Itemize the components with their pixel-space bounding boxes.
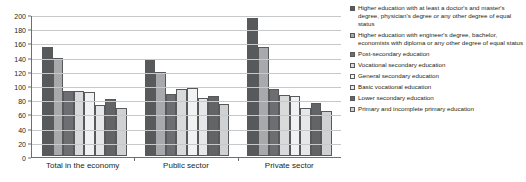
bar bbox=[279, 95, 290, 156]
legend-item[interactable]: Higher education with at least a doctor'… bbox=[350, 4, 526, 28]
legend-swatch-icon bbox=[350, 107, 355, 112]
legend-swatch-icon bbox=[350, 52, 355, 57]
legend-swatch-icon bbox=[350, 74, 355, 79]
bar bbox=[269, 89, 280, 156]
y-tick-label: 120 bbox=[14, 69, 26, 76]
legend-swatch-icon bbox=[350, 33, 355, 38]
plot-area bbox=[31, 16, 341, 158]
y-tick-mark bbox=[28, 143, 31, 144]
plot-wrapper: 200180160140120100806040200 Total in the… bbox=[0, 0, 350, 182]
y-tick-mark bbox=[28, 115, 31, 116]
legend-label: General secondary education bbox=[358, 72, 439, 80]
x-axis-divider bbox=[134, 158, 135, 161]
bar bbox=[290, 96, 301, 156]
y-tick-label: 20 bbox=[18, 140, 26, 147]
y-axis: 200180160140120100806040200 bbox=[0, 16, 26, 158]
y-tick-mark bbox=[28, 101, 31, 102]
gridline bbox=[32, 144, 341, 145]
legend-item[interactable]: Post-secondary education bbox=[350, 50, 526, 58]
gridline bbox=[32, 73, 341, 74]
bar bbox=[208, 96, 219, 156]
y-tick-label: 180 bbox=[14, 27, 26, 34]
gridline bbox=[32, 30, 341, 31]
x-category-label: Private sector bbox=[238, 161, 341, 170]
legend-label: Lower secondary education bbox=[358, 94, 434, 102]
bar bbox=[198, 98, 209, 156]
y-tick-label: 100 bbox=[14, 84, 26, 91]
bar-group bbox=[238, 16, 341, 156]
bar bbox=[166, 94, 177, 156]
legend-swatch-icon bbox=[350, 63, 355, 68]
bar-group bbox=[136, 16, 239, 156]
y-tick-mark bbox=[28, 30, 31, 31]
y-tick-label: 0 bbox=[22, 155, 26, 162]
y-tick-mark bbox=[28, 129, 31, 130]
bar bbox=[145, 59, 156, 156]
y-tick-mark bbox=[28, 44, 31, 45]
legend-label: Post-secondary education bbox=[358, 50, 430, 58]
legend-item[interactable]: Basic vocational education bbox=[350, 83, 526, 91]
legend-label: Vocational secondary education bbox=[358, 61, 445, 69]
y-tick-mark bbox=[28, 72, 31, 73]
legend-label: Higher education with at least a doctor'… bbox=[358, 4, 526, 28]
bar-chart: 200180160140120100806040200 Total in the… bbox=[0, 0, 526, 182]
bar bbox=[187, 88, 198, 156]
legend-item[interactable]: Vocational secondary education bbox=[350, 61, 526, 69]
legend-swatch-icon bbox=[350, 96, 355, 101]
legend-swatch-icon bbox=[350, 85, 355, 90]
y-tick-label: 160 bbox=[14, 41, 26, 48]
gridline bbox=[32, 59, 341, 60]
legend-label: Basic vocational education bbox=[358, 83, 431, 91]
gridline bbox=[32, 115, 341, 116]
x-axis: Total in the economyPublic sectorPrivate… bbox=[31, 161, 341, 170]
gridline bbox=[32, 16, 341, 17]
gridline bbox=[32, 44, 341, 45]
gridline bbox=[32, 87, 341, 88]
legend-label: Primary and incomplete primary education bbox=[358, 105, 474, 113]
y-tick-label: 80 bbox=[18, 98, 26, 105]
y-tick-mark bbox=[28, 158, 31, 159]
gridline bbox=[32, 101, 341, 102]
legend-item[interactable]: Primary and incomplete primary education bbox=[350, 105, 526, 113]
legend-label: Higher education with engineer's degree,… bbox=[358, 31, 526, 47]
y-tick-label: 140 bbox=[14, 55, 26, 62]
bar-groups bbox=[33, 16, 341, 156]
gridline bbox=[32, 130, 341, 131]
y-tick-mark bbox=[28, 87, 31, 88]
bar bbox=[176, 89, 187, 156]
x-category-label: Public sector bbox=[134, 161, 237, 170]
legend-item[interactable]: Lower secondary education bbox=[350, 94, 526, 102]
x-category-label: Total in the economy bbox=[31, 161, 134, 170]
bar-group bbox=[33, 16, 136, 156]
x-axis-divider bbox=[238, 158, 239, 161]
y-tick-label: 200 bbox=[14, 13, 26, 20]
legend-item[interactable]: General secondary education bbox=[350, 72, 526, 80]
y-tick-label: 60 bbox=[18, 112, 26, 119]
legend-swatch-icon bbox=[350, 6, 355, 11]
legend: Higher education with at least a doctor'… bbox=[350, 4, 526, 116]
y-tick-mark bbox=[28, 16, 31, 17]
bar bbox=[321, 111, 332, 156]
y-tick-label: 40 bbox=[18, 126, 26, 133]
y-tick-mark bbox=[28, 58, 31, 59]
bar bbox=[105, 99, 116, 157]
legend-item[interactable]: Higher education with engineer's degree,… bbox=[350, 31, 526, 47]
